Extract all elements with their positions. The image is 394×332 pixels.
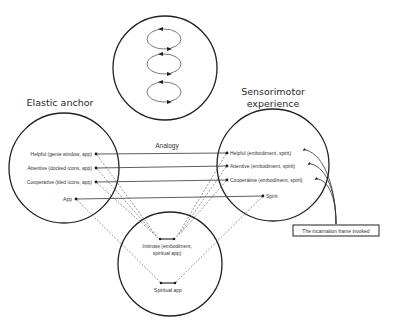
top-circle bbox=[113, 16, 217, 120]
sensorimotor-group: Sensorimotor experience Helpful (embodim… bbox=[217, 86, 329, 221]
blending-diagram: Elastic anchor Helpful (genie window, ap… bbox=[0, 0, 394, 332]
elastic-anchor-title: Elastic anchor bbox=[27, 97, 94, 108]
left-item-cooperative: Cooperative (tiled icons, app) bbox=[27, 179, 92, 185]
right-item-attentive: Attentive (embodiment, spirit) bbox=[230, 163, 295, 169]
projection-lines bbox=[77, 154, 262, 282]
incarnation-label: The incarnation frame invoked bbox=[302, 228, 369, 234]
analogy-label: Analogy bbox=[155, 142, 179, 150]
right-item-cooperative: Cooperative (embodiment, spirit) bbox=[230, 177, 303, 183]
right-item-helpful: Helpful (embodiment, spirit) bbox=[230, 150, 291, 156]
blend-group: Intimate (embodiment, spiritual app) Spi… bbox=[118, 212, 222, 316]
left-item-helpful: Helpful (genie window, app) bbox=[31, 151, 93, 157]
right-item-spirit: Spirit bbox=[266, 193, 278, 199]
blend-circle bbox=[118, 212, 222, 316]
elastic-anchor-group: Elastic anchor Helpful (genie window, ap… bbox=[9, 97, 119, 223]
cycle-loop-icon bbox=[147, 52, 181, 76]
cycle-loop-icon bbox=[147, 27, 181, 51]
sensorimotor-title-line1: Sensorimotor bbox=[241, 86, 305, 97]
blend-item-spiritual-app: Spiritual app bbox=[154, 287, 182, 293]
blend-item-intimate-line1: Intimate (embodiment, bbox=[142, 243, 192, 249]
incarnation-callout: The incarnation frame invoked bbox=[293, 150, 379, 236]
top-circle-group bbox=[113, 16, 217, 120]
left-item-app: App bbox=[63, 196, 72, 202]
left-item-attentive: Attentive (docked icons, app) bbox=[28, 165, 93, 171]
blend-item-intimate-line2: spiritual app) bbox=[153, 250, 182, 256]
sensorimotor-title-line2: experience bbox=[247, 98, 300, 109]
cycle-loop-icon bbox=[147, 80, 181, 104]
